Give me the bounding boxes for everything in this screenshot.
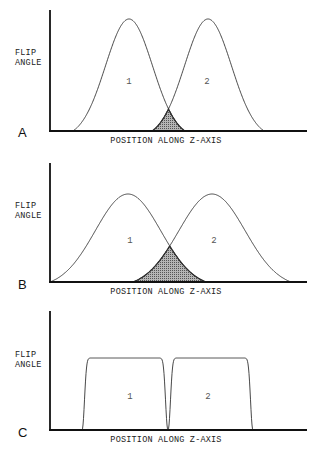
slice-label: 1 <box>127 236 132 246</box>
slice-label: 2 <box>204 77 209 87</box>
y-axis-label: FLIP <box>15 48 36 58</box>
x-axis-label: POSITION ALONG Z-AXIS <box>110 435 221 445</box>
y-axis-label: ANGLE <box>15 211 42 221</box>
y-axis-label: ANGLE <box>15 58 42 68</box>
panels-group: 12FLIPANGLEPOSITION ALONG Z-AXISA12FLIPA… <box>15 10 307 445</box>
overlap-region <box>152 109 185 131</box>
y-axis-label: ANGLE <box>15 360 42 370</box>
slice-label: 2 <box>205 392 210 402</box>
x-axis-label: POSITION ALONG Z-AXIS <box>110 136 221 146</box>
y-axis-label: FLIP <box>15 201 36 211</box>
slice-label: 1 <box>126 77 131 87</box>
x-axis-label: POSITION ALONG Z-AXIS <box>110 287 221 297</box>
panel-c: 12FLIPANGLEPOSITION ALONG Z-AXISC <box>15 311 307 445</box>
panel-b: 12FLIPANGLEPOSITION ALONG Z-AXISB <box>15 163 307 297</box>
slice-profile-1 <box>82 358 168 430</box>
overlap-region <box>134 246 205 282</box>
slice-label: 2 <box>211 236 216 246</box>
panel-a: 12FLIPANGLEPOSITION ALONG Z-AXISA <box>15 10 307 146</box>
slice-profile-figure: 12FLIPANGLEPOSITION ALONG Z-AXISA12FLIPA… <box>0 0 319 449</box>
slice-label: 1 <box>127 392 132 402</box>
panel-letter: C <box>18 425 27 440</box>
panel-letter: B <box>18 277 27 292</box>
panel-letter: A <box>18 125 27 140</box>
y-axis-label: FLIP <box>15 350 36 360</box>
